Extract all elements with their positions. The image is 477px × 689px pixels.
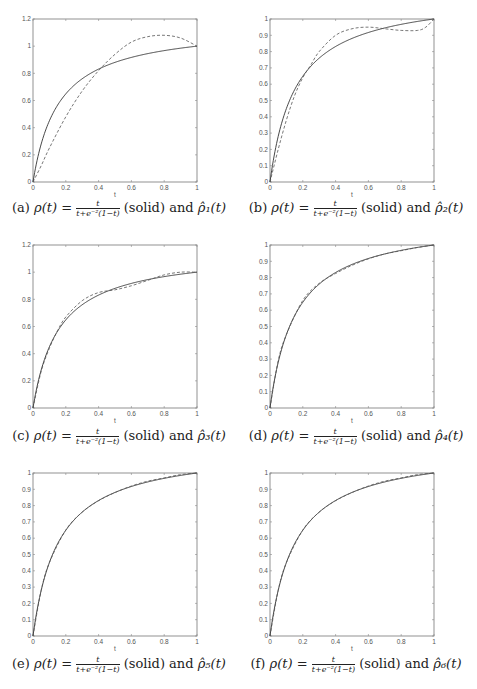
x-axis-label: t	[351, 417, 353, 424]
caption-label: (c)	[12, 428, 29, 443]
x-tick-label: 1	[432, 184, 436, 191]
y-tick-label: 0	[27, 632, 31, 639]
caption-fraction: tt+e⁻²(1−t)	[76, 655, 119, 674]
caption-prefix: ρ(t) =	[34, 428, 72, 443]
x-tick-label: 0.8	[397, 184, 406, 191]
y-tick-label: 0	[264, 404, 268, 411]
plot-b: 00.20.40.60.8100.10.20.30.40.50.60.70.80…	[237, 0, 475, 200]
plot-f: 00.20.40.60.8100.10.20.30.40.50.60.70.80…	[237, 454, 475, 654]
x-tick-label: 0	[268, 410, 272, 417]
y-tick-label: 0.6	[259, 306, 268, 313]
plot-frame	[33, 473, 197, 636]
x-axis-label: t	[114, 191, 116, 198]
x-axis-label: t	[351, 645, 353, 652]
y-tick-label: 0.1	[259, 388, 268, 395]
caption-prefix: ρ(t) =	[271, 428, 309, 443]
x-axis-label: t	[114, 417, 116, 424]
x-tick-label: 0.6	[127, 184, 136, 191]
x-tick-label: 0.2	[61, 410, 70, 417]
y-tick-label: 0.6	[22, 323, 31, 330]
y-tick-label: 0.5	[259, 551, 268, 558]
subplot-b: 00.20.40.60.8100.10.20.30.40.50.60.70.80…	[237, 0, 475, 229]
y-tick-label: 0.5	[259, 97, 268, 104]
x-tick-label: 0	[31, 638, 35, 645]
caption-label: (a)	[12, 200, 30, 215]
caption-f: (f) ρ(t) = tt+e⁻²(1−t) (solid) and ρ̂₆(t…	[237, 655, 475, 674]
caption-c: (c) ρ(t) = tt+e⁻²(1−t) (solid) and ρ̂₃(t…	[0, 427, 238, 446]
y-tick-label: 0.8	[259, 274, 268, 281]
caption-suffix: (solid) and	[124, 428, 194, 443]
x-tick-label: 0.8	[160, 410, 169, 417]
subplot-c: 00.20.40.60.8100.20.40.60.811.2t (c) ρ(t…	[0, 226, 238, 455]
x-tick-label: 1	[195, 410, 199, 417]
plot-frame	[33, 245, 197, 408]
y-tick-label: 0	[27, 404, 31, 411]
y-tick-label: 1	[27, 42, 31, 49]
y-tick-label: 0.2	[22, 377, 31, 384]
subplot-e: 00.20.40.60.8100.10.20.30.40.50.60.70.80…	[0, 454, 238, 683]
y-tick-label: 0.5	[22, 551, 31, 558]
caption-label: (d)	[249, 428, 267, 443]
x-tick-label: 0.8	[160, 184, 169, 191]
y-tick-label: 0.9	[259, 32, 268, 39]
y-tick-label: 1	[264, 469, 268, 476]
plot-frame	[270, 245, 434, 408]
caption-approx: ρ̂₃(t)	[198, 428, 226, 443]
y-tick-label: 0.1	[22, 616, 31, 623]
x-tick-label: 0.4	[331, 638, 340, 645]
caption-suffix: (solid) and	[359, 656, 429, 671]
y-tick-label: 0.6	[259, 80, 268, 87]
y-tick-label: 0.8	[259, 502, 268, 509]
plot-c: 00.20.40.60.8100.20.40.60.811.2t	[0, 226, 238, 426]
y-tick-label: 0.2	[259, 600, 268, 607]
x-axis-label: t	[114, 645, 116, 652]
y-tick-label: 0.9	[22, 486, 31, 493]
caption-prefix: ρ(t) =	[271, 200, 309, 215]
y-tick-label: 0.4	[22, 124, 31, 131]
y-tick-label: 0.2	[259, 146, 268, 153]
caption-fraction: tt+e⁻²(1−t)	[312, 655, 355, 674]
caption-a: (a) ρ(t) = tt+e⁻²(1−t) (solid) and ρ̂₁(t…	[0, 199, 238, 218]
x-tick-label: 1	[432, 638, 436, 645]
caption-approx: ρ̂₂(t)	[435, 200, 463, 215]
plot-a: 00.20.40.60.8100.20.40.60.811.2t	[0, 0, 238, 200]
y-tick-label: 0.7	[259, 64, 268, 71]
x-tick-label: 0.8	[160, 638, 169, 645]
y-tick-label: 0.3	[259, 129, 268, 136]
y-tick-label: 1	[27, 469, 31, 476]
y-tick-label: 0.7	[22, 518, 31, 525]
y-tick-label: 0.4	[22, 350, 31, 357]
caption-approx: ρ̂₅(t)	[198, 656, 226, 671]
x-tick-label: 0	[31, 184, 35, 191]
y-tick-label: 0.3	[22, 583, 31, 590]
y-tick-label: 0.4	[259, 113, 268, 120]
y-tick-label: 0.7	[259, 290, 268, 297]
caption-e: (e) ρ(t) = tt+e⁻²(1−t) (solid) and ρ̂₅(t…	[0, 655, 238, 674]
y-tick-label: 0.4	[259, 339, 268, 346]
caption-suffix: (solid) and	[361, 200, 431, 215]
x-tick-label: 0.4	[331, 184, 340, 191]
caption-suffix: (solid) and	[361, 428, 431, 443]
y-tick-label: 0.2	[259, 372, 268, 379]
caption-approx: ρ̂₆(t)	[433, 656, 461, 671]
x-tick-label: 0.2	[298, 410, 307, 417]
x-tick-label: 0.2	[61, 638, 70, 645]
x-tick-label: 0	[31, 410, 35, 417]
x-tick-label: 0.8	[397, 410, 406, 417]
y-tick-label: 0.9	[259, 486, 268, 493]
x-tick-label: 0	[268, 638, 272, 645]
x-tick-label: 0.2	[298, 184, 307, 191]
x-tick-label: 0.6	[364, 410, 373, 417]
x-tick-label: 0.4	[94, 638, 103, 645]
caption-suffix: (solid) and	[124, 200, 194, 215]
plot-frame	[270, 473, 434, 636]
caption-label: (b)	[249, 200, 267, 215]
subplot-a: 00.20.40.60.8100.20.40.60.811.2t (a) ρ(t…	[0, 0, 238, 229]
y-tick-label: 1	[264, 15, 268, 22]
x-tick-label: 0.8	[397, 638, 406, 645]
y-tick-label: 0	[264, 632, 268, 639]
x-tick-label: 0.6	[127, 410, 136, 417]
x-tick-label: 1	[195, 184, 199, 191]
caption-label: (e)	[12, 656, 30, 671]
y-tick-label: 0.2	[22, 151, 31, 158]
